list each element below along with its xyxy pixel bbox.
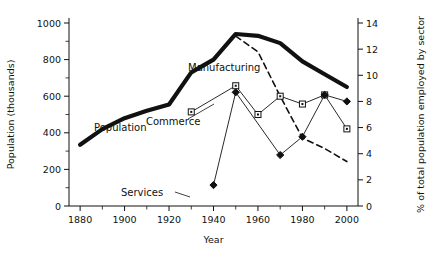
axis-titles-group: YearPopulation (thousands)% of total pop…	[5, 16, 426, 245]
y-axis-title: Population (thousands)	[5, 60, 16, 170]
series-line-services	[214, 92, 347, 185]
x-tick-label: 1900	[112, 214, 136, 225]
y-tick-label: 1000	[37, 18, 61, 29]
x-tick-label: 1940	[201, 214, 225, 225]
data-point-marker-dot	[279, 95, 281, 97]
data-point-marker	[232, 89, 239, 96]
y2-tick-label: 14	[366, 18, 378, 29]
series-label-services: Services	[121, 187, 163, 198]
series-group	[80, 34, 350, 189]
x-tick-label: 1980	[290, 214, 314, 225]
x-axis-title: Year	[202, 234, 223, 245]
y2-tick-label: 6	[366, 122, 372, 133]
data-point-marker-dot	[235, 85, 237, 87]
x-tick-label: 2000	[335, 214, 359, 225]
dual-axis-line-chart: 0200400600800100002468101214188019001920…	[0, 0, 433, 260]
y2-tick-label: 10	[366, 70, 378, 81]
y2-tick-label: 0	[366, 201, 372, 212]
data-point-marker	[343, 98, 350, 105]
y-tick-label: 200	[43, 164, 61, 175]
x-tick-label: 1960	[246, 214, 270, 225]
y-tick-label: 600	[43, 91, 61, 102]
series-markers-commerce	[188, 83, 350, 132]
chart-container: 0200400600800100002468101214188019001920…	[0, 0, 433, 260]
data-point-marker-dot	[190, 111, 192, 113]
series-label-manufacturing: Manufacturing	[188, 62, 260, 73]
data-point-marker-dot	[346, 128, 348, 130]
x-tick-label: 1880	[68, 214, 92, 225]
series-label-commerce: Commerce	[146, 116, 200, 127]
data-point-marker-dot	[301, 103, 303, 105]
x-tick-label: 1920	[157, 214, 181, 225]
series-markers-services	[210, 89, 351, 189]
y2-axis-title: % of total population employed by sector	[415, 16, 426, 213]
leader-line-services	[175, 192, 190, 197]
y-tick-label: 0	[55, 201, 61, 212]
y-tick-label: 400	[43, 127, 61, 138]
y-tick-label: 800	[43, 54, 61, 65]
data-point-marker	[210, 181, 217, 188]
y2-tick-label: 2	[366, 174, 372, 185]
axes-group: 0200400600800100002468101214188019001920…	[37, 18, 378, 226]
y2-tick-label: 4	[366, 148, 372, 159]
series-label-population: Population	[94, 122, 147, 133]
y2-tick-label: 12	[366, 44, 378, 55]
data-point-marker-dot	[257, 114, 259, 116]
y2-tick-label: 8	[366, 96, 372, 107]
